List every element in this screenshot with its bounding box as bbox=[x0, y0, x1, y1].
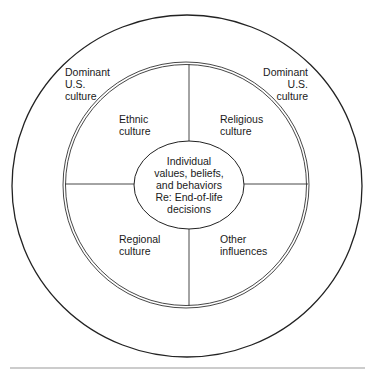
label-dominant-us-culture-right: Dominant U.S. culture bbox=[255, 66, 308, 102]
label-other-influences: Other influences bbox=[220, 233, 267, 257]
label-regional-culture: Regional culture bbox=[119, 233, 160, 257]
label-center-individual-values: Individual values, beliefs, and behavior… bbox=[134, 155, 244, 215]
label-ethnic-culture: Ethnic culture bbox=[119, 113, 151, 137]
label-dominant-us-culture-left: Dominant U.S. culture bbox=[65, 66, 110, 102]
label-religious-culture: Religious culture bbox=[220, 113, 263, 137]
